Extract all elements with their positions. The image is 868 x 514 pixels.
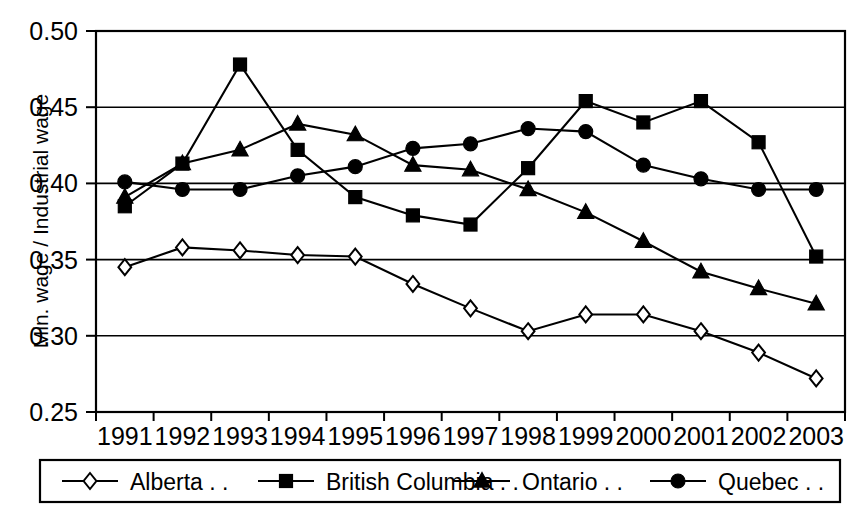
filled-circle-marker [175, 182, 189, 196]
filled-triangle-marker [290, 115, 306, 130]
filled-square-marker [752, 136, 765, 149]
open-diamond-marker [118, 259, 131, 275]
x-tick-label: 1997 [443, 422, 499, 450]
legend-label: Alberta . . [130, 469, 228, 495]
open-diamond-marker [291, 247, 304, 263]
legend: Alberta . .British Columbia . .Ontario .… [40, 460, 840, 502]
filled-triangle-marker [693, 263, 709, 278]
filled-triangle-marker [405, 157, 421, 172]
y-tick-label: 0.25 [29, 398, 78, 426]
open-diamond-marker [579, 306, 592, 322]
open-diamond-marker [695, 323, 708, 339]
filled-square-marker [349, 191, 362, 204]
x-tick-label: 1998 [500, 422, 556, 450]
x-tick-label: 2000 [616, 422, 672, 450]
open-diamond-marker [406, 276, 419, 292]
open-diamond-marker [349, 249, 362, 265]
filled-circle-marker [118, 175, 132, 189]
filled-circle-marker [694, 172, 708, 186]
filled-circle-marker [809, 182, 823, 196]
x-tick-label: 1995 [327, 422, 383, 450]
open-diamond-marker [176, 239, 189, 255]
x-axis: 1991199219931994199519961997199819992000… [96, 412, 845, 450]
open-diamond-marker [234, 242, 247, 258]
line-chart: 0.500.450.400.350.300.25 199119921993199… [0, 0, 868, 514]
x-tick-label: 1993 [212, 422, 268, 450]
filled-circle-marker [579, 125, 593, 139]
filled-circle-marker [752, 182, 766, 196]
filled-circle-marker [406, 141, 420, 155]
filled-circle-marker [233, 182, 247, 196]
x-tick-label: 2001 [673, 422, 729, 450]
filled-circle-marker [636, 158, 650, 172]
x-tick-label: 1996 [385, 422, 441, 450]
series-alberta [118, 239, 822, 386]
filled-square-marker [637, 116, 650, 129]
filled-square-marker [280, 475, 293, 488]
filled-square-marker [810, 250, 823, 263]
filled-square-marker [291, 143, 304, 156]
x-tick-label: 2002 [731, 422, 787, 450]
filled-circle-marker [348, 160, 362, 174]
x-tick-label: 1992 [155, 422, 211, 450]
filled-square-marker [234, 58, 247, 71]
x-tick-label: 1994 [270, 422, 326, 450]
x-tick-label: 1991 [97, 422, 153, 450]
filled-triangle-marker [635, 233, 651, 248]
filled-triangle-marker [117, 189, 133, 204]
legend-label: Ontario . . [522, 469, 623, 495]
filled-square-marker [464, 218, 477, 231]
filled-square-marker [406, 209, 419, 222]
x-tick-label: 2003 [788, 422, 844, 450]
filled-circle-marker [464, 137, 478, 151]
chart-container: 0.500.450.400.350.300.25 199119921993199… [0, 0, 868, 514]
open-diamond-marker [752, 345, 765, 361]
y-tick-label: 0.50 [29, 17, 78, 45]
open-diamond-marker [637, 306, 650, 322]
open-diamond-marker [810, 370, 823, 386]
y-axis-title-text: Min. wage / Industrial wage [29, 94, 52, 348]
legend-label: Quebec . . [718, 469, 824, 495]
filled-circle-marker [521, 122, 535, 136]
open-diamond-marker [522, 323, 535, 339]
filled-square-marker [522, 162, 535, 175]
open-diamond-marker [464, 300, 477, 316]
x-tick-label: 1999 [558, 422, 614, 450]
filled-triangle-marker [232, 141, 248, 156]
filled-square-marker [579, 95, 592, 108]
filled-square-marker [694, 95, 707, 108]
y-axis-title: Min. wage / Industrial wage [29, 94, 52, 348]
filled-circle-marker [291, 169, 305, 183]
series-quebec [118, 122, 823, 197]
filled-circle-marker [671, 474, 685, 488]
